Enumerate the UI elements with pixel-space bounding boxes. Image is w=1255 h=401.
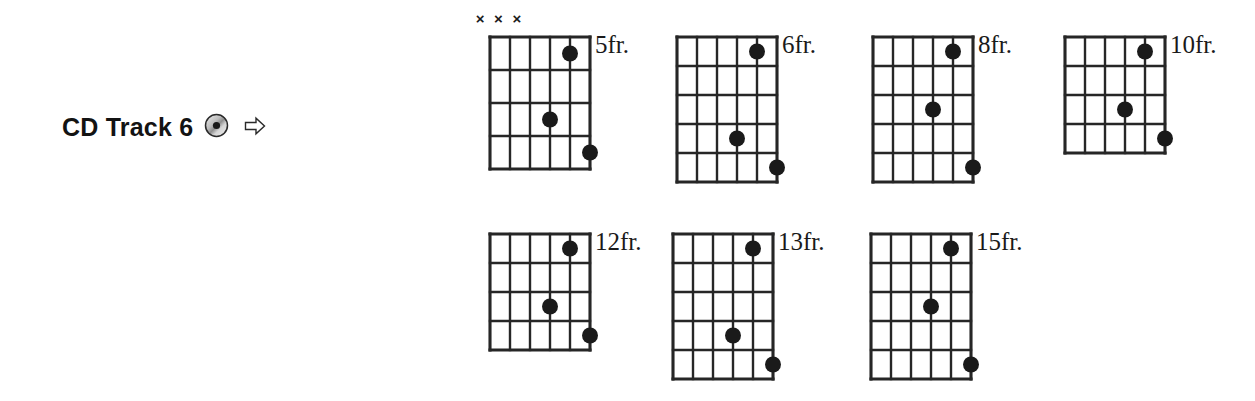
fret-position-label: 8fr. — [978, 32, 1012, 57]
finger-dot-string-5-fret-1 — [749, 44, 765, 60]
finger-dot-string-5-fret-1 — [745, 241, 761, 257]
fretboard-grid — [668, 28, 786, 191]
fret-position-label: 5fr. — [595, 32, 629, 57]
finger-dot-string-5-fret-1 — [945, 44, 961, 60]
chord-diagram-12fr: 12fr. — [481, 225, 651, 361]
mute-marker-string-5 — [544, 11, 562, 26]
chord-diagram-8fr: 8fr. — [864, 28, 1034, 193]
finger-dot-string-5-fret-1 — [1137, 44, 1153, 60]
finger-dot-string-6-fret-5 — [965, 160, 981, 176]
chord-diagram-5fr: ×××5fr. — [481, 28, 651, 180]
finger-dot-string-5-fret-1 — [562, 46, 578, 62]
finger-dot-string-4-fret-3 — [923, 299, 939, 315]
chord-diagram-15fr: 15fr. — [862, 225, 1032, 390]
finger-dot-string-6-fret-5 — [769, 160, 785, 176]
finger-dot-string-4-fret-4 — [725, 328, 741, 344]
fretboard-grid — [862, 225, 980, 388]
fret-position-label: 15fr. — [976, 229, 1023, 254]
fretboard-grid — [481, 28, 599, 178]
fretboard-grid — [864, 28, 982, 191]
fretboard-grid — [481, 225, 599, 359]
finger-dot-string-6-fret-4 — [582, 145, 598, 161]
finger-dot-string-6-fret-5 — [963, 357, 979, 373]
mute-marker-string-4 — [526, 11, 544, 26]
finger-dot-string-6-fret-5 — [765, 357, 781, 373]
finger-dot-string-4-fret-3 — [925, 102, 941, 118]
fret-position-label: 13fr. — [778, 229, 825, 254]
finger-dot-string-6-fret-4 — [582, 328, 598, 344]
chord-diagram-10fr: 10fr. — [1056, 28, 1226, 164]
mute-marker-string-1: × — [471, 11, 489, 26]
finger-dot-string-4-fret-4 — [729, 131, 745, 147]
mute-marker-string-3: × — [508, 11, 526, 26]
muted-strings-row: ××× — [481, 11, 581, 26]
finger-dot-string-5-fret-1 — [943, 241, 959, 257]
finger-dot-string-4-fret-3 — [542, 112, 558, 128]
chord-diagram-6fr: 6fr. — [668, 28, 838, 193]
fret-position-label: 6fr. — [782, 32, 816, 57]
chord-diagram-13fr: 13fr. — [664, 225, 834, 390]
fret-position-label: 12fr. — [595, 229, 642, 254]
mute-marker-string-6 — [563, 11, 581, 26]
fretboard-grid — [1056, 28, 1174, 162]
fret-position-label: 10fr. — [1170, 32, 1217, 57]
mute-marker-string-2: × — [489, 11, 507, 26]
finger-dot-string-4-fret-3 — [1117, 102, 1133, 118]
fretboard-grid — [664, 225, 782, 388]
finger-dot-string-5-fret-1 — [562, 241, 578, 257]
finger-dot-string-4-fret-3 — [542, 299, 558, 315]
chord-diagram-area: ×××5fr.6fr.8fr.10fr.12fr.13fr.15fr. — [0, 0, 1255, 401]
finger-dot-string-6-fret-4 — [1157, 131, 1173, 147]
